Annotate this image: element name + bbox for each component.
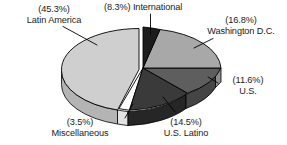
- label-latin-america: (45.3%) Latin America: [6, 4, 102, 25]
- label-miscellaneous-name: Miscellaneous: [38, 128, 122, 139]
- label-us-latino-percent: (14.5%): [150, 117, 222, 128]
- label-us-latino: (14.5%) U.S. Latino: [150, 117, 222, 138]
- label-washington-dc-name: Washington D.C.: [195, 26, 287, 37]
- label-international-percent: (8.3%): [104, 2, 130, 12]
- leader-line-latin-america: [63, 27, 97, 46]
- pie-chart-figure: (45.3%) Latin America (8.3%) Internation…: [0, 0, 287, 145]
- label-washington-dc-percent: (16.8%): [195, 15, 287, 26]
- label-international: (8.3%) International: [104, 2, 182, 13]
- label-washington-dc: (16.8%) Washington D.C.: [195, 15, 287, 36]
- label-miscellaneous: (3.5%) Miscellaneous: [38, 117, 122, 138]
- label-us-percent: (11.6%): [222, 75, 274, 86]
- label-latin-america-name: Latin America: [6, 15, 102, 26]
- label-us: (11.6%) U.S.: [222, 75, 274, 96]
- label-latin-america-percent: (45.3%): [6, 4, 102, 15]
- label-international-name: International: [133, 2, 182, 12]
- label-us-name: U.S.: [222, 86, 274, 97]
- label-us-latino-name: U.S. Latino: [150, 128, 222, 139]
- label-miscellaneous-percent: (3.5%): [38, 117, 122, 128]
